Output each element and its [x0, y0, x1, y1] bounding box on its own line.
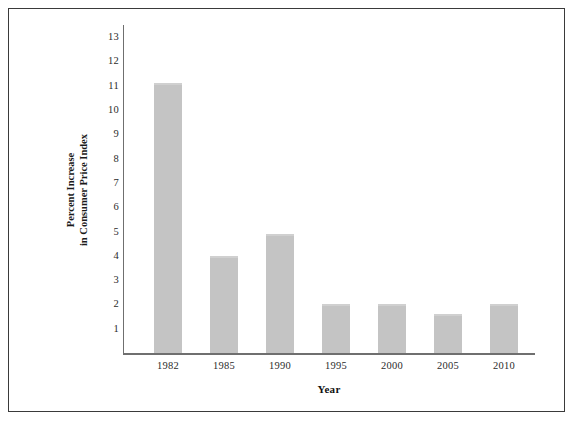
y-axis-tick-label: 1 [79, 324, 119, 334]
x-axis-tick-label: 2000 [362, 360, 422, 371]
x-axis-tick-label: 2005 [418, 360, 478, 371]
x-axis-tick-labels: 1982198519901995200020052010 [123, 360, 535, 378]
y-axis-title-line-1: Percent Increase [64, 105, 77, 275]
bar [434, 314, 462, 353]
y-axis-tick-label: 3 [79, 275, 119, 285]
x-axis-tick-label: 1985 [194, 360, 254, 371]
bar-series [123, 25, 535, 353]
bar [490, 304, 518, 353]
y-axis-tick-label: 2 [79, 299, 119, 309]
y-axis-tick-label: 11 [79, 81, 119, 91]
bar [154, 83, 182, 353]
bar [322, 304, 350, 353]
chart-figure: 13121110987654321 Percent Increase in Co… [0, 0, 573, 421]
bar [266, 234, 294, 353]
x-axis-tick-label: 1995 [306, 360, 366, 371]
y-axis-title-line-2: in Consumer Price Index [77, 105, 90, 275]
bar [378, 304, 406, 353]
x-axis-tick-label: 1990 [250, 360, 310, 371]
x-axis-tick-label: 1982 [138, 360, 198, 371]
y-axis-tick-label: 12 [79, 56, 119, 66]
y-axis-tick-label: 13 [79, 32, 119, 42]
bar [210, 256, 238, 353]
x-axis-title: Year [123, 383, 535, 395]
x-axis-line [123, 353, 535, 355]
x-axis-tick-label: 2010 [474, 360, 534, 371]
y-axis-title: Percent Increase in Consumer Price Index [60, 110, 94, 270]
